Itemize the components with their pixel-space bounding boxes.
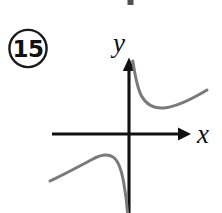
x-axis-label: x	[196, 119, 209, 149]
y-axis-label: y	[110, 28, 125, 58]
curve-upper-right-branch	[133, 61, 207, 108]
x-axis-arrow-icon	[178, 128, 191, 141]
cropped-glyph-fragment	[128, 0, 134, 5]
math-figure-panel: 15 y x	[0, 0, 222, 213]
graph-canvas: 15 y x	[0, 0, 222, 213]
curve-lower-left-branch	[50, 155, 128, 213]
problem-number-label: 15	[12, 36, 43, 62]
